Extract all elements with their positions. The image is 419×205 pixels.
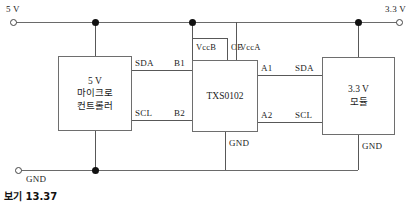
pin-label-shifter-b1: B1 — [174, 58, 185, 68]
gnd-label: GND — [26, 174, 46, 184]
circuit-diagram: 5 V 3.3 V GND 5 V 마이크로 컨트롤러 SDA B1 SCL B… — [0, 0, 419, 205]
pin-label-shifter-a1: A1 — [261, 63, 272, 73]
block-mcu: 5 V 마이크로 컨트롤러 — [58, 56, 132, 131]
mcu-line-2: 마이크로 — [77, 87, 113, 100]
level-shifter-line-1: TXS0102 — [207, 90, 244, 103]
pin-label-module-sda: SDA — [295, 63, 314, 73]
pin-label-shifter-gnd: GND — [229, 138, 249, 148]
gnd-junction-mcu — [92, 167, 99, 174]
shifter-gnd-stub-wire — [225, 132, 226, 170]
module-line-2: 모듈 — [350, 96, 368, 109]
gnd-rail-wire — [21, 170, 358, 171]
shifter-oe-stub-wire — [227, 38, 228, 60]
pin-label-shifter-vcca: VccA — [240, 42, 261, 52]
vcc5-label: 5 V — [6, 4, 20, 14]
shifter-vccb-stub-wire — [192, 22, 193, 60]
module-line-1: 3.3 V — [348, 83, 369, 96]
module-vcc-stub-wire — [358, 22, 359, 57]
scl-b2-wire — [132, 120, 192, 121]
pin-label-shifter-b2: B2 — [174, 108, 185, 118]
pin-label-mcu-sda: SDA — [135, 58, 154, 68]
vcc33-junction-module — [355, 19, 362, 26]
vcc5-junction-mcu — [92, 19, 99, 26]
vcc5-rail-wire — [16, 22, 399, 23]
pin-label-shifter-a2: A2 — [261, 110, 272, 120]
figure-caption: 보기 13.37 — [4, 188, 57, 203]
gnd-terminal — [15, 167, 22, 174]
a2-scl-wire — [258, 122, 322, 123]
mcu-line-3: 컨트롤러 — [77, 100, 113, 113]
mcu-line-1: 5 V — [88, 75, 102, 88]
sda-b1-wire — [132, 70, 192, 71]
vcc33-terminal — [396, 19, 403, 26]
pin-label-module-gnd: GND — [362, 141, 382, 151]
a1-sda-wire — [258, 75, 322, 76]
vcc33-label: 3.3 V — [385, 4, 406, 14]
module-gnd-stub-wire — [358, 135, 359, 170]
vcc5-terminal — [10, 19, 17, 26]
pin-label-shifter-vccb: VccB — [196, 42, 216, 52]
vccb-oe-tie-wire — [192, 38, 228, 39]
mcu-gnd-stub-wire — [95, 131, 96, 170]
block-module: 3.3 V 모듈 — [322, 57, 395, 135]
mcu-vcc-stub-wire — [95, 22, 96, 56]
block-level-shifter: TXS0102 — [192, 60, 258, 132]
shifter-vcca-stub-wire — [236, 22, 237, 60]
pin-label-module-scl: SCL — [295, 110, 312, 120]
pin-label-mcu-scl: SCL — [135, 108, 152, 118]
vcc5-junction-shifter — [189, 19, 196, 26]
